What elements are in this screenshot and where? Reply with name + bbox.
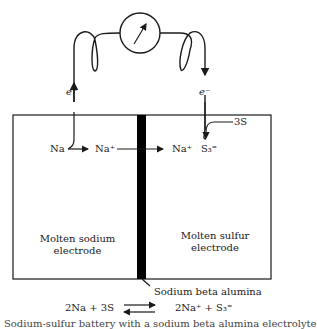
right-electrode-label: Molten sulfur electrode [170, 230, 260, 254]
na-plus-left-label: Na⁺ [95, 143, 115, 155]
galvanometer-icon [120, 13, 160, 53]
right-electrode-line1: Molten sulfur [170, 230, 260, 242]
three-s-label: 3S [234, 116, 247, 128]
right-electrode-line2: electrode [170, 242, 260, 254]
na-plus-right-label: Na⁺ [172, 143, 192, 155]
left-electrode-line1: Molten sodium [30, 233, 125, 245]
equation-reactants: 2Na + 3S [65, 302, 114, 314]
figure-caption: Sodium-sulfur battery with a sodium beta… [4, 318, 317, 329]
equation-products: 2Na⁺ + S₃⁼ [175, 302, 232, 314]
membrane-label: Sodium beta alumina [154, 286, 262, 298]
beta-alumina-membrane [137, 115, 146, 279]
s3-label: S₃⁼ [201, 143, 217, 155]
left-electrode-line2: electrode [30, 245, 125, 257]
left-electrode-label: Molten sodium electrode [30, 233, 125, 257]
electron-label-right: e⁻ [199, 86, 210, 98]
na-label: Na [50, 143, 65, 155]
electron-label-left: e⁻ [66, 86, 77, 98]
